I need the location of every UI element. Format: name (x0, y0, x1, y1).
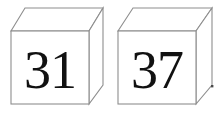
cube-scene: 31 37 (0, 0, 224, 114)
cube-left[interactable]: 31 (11, 8, 103, 104)
cube-left-top-face (11, 8, 103, 31)
cube-right-number: 37 (131, 40, 183, 100)
cube-left-number: 31 (24, 40, 76, 100)
speck-artifact (211, 85, 213, 87)
cube-right[interactable]: 37 (118, 8, 212, 104)
cubes-illustration: 31 37 (0, 0, 224, 114)
